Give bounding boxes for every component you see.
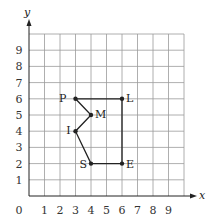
tick-labels: 0123456789123456789 xyxy=(16,44,173,217)
x-tick-label: 8 xyxy=(150,204,157,217)
x-tick-label: 5 xyxy=(103,204,110,217)
x-tick-label: 3 xyxy=(72,204,79,217)
y-tick-label: 5 xyxy=(16,109,23,122)
y-tick-label: 2 xyxy=(16,158,23,171)
coordinate-grid: xy 0123456789123456789 PLESIM xyxy=(0,0,210,222)
x-tick-label: 6 xyxy=(119,204,126,217)
point-l-dot xyxy=(120,97,124,101)
x-tick-label: 4 xyxy=(88,204,95,217)
y-tick-label: 8 xyxy=(16,60,23,73)
point-label-i: I xyxy=(66,124,70,137)
point-e-dot xyxy=(120,161,124,165)
x-tick-label: 1 xyxy=(41,204,48,217)
y-axis-arrow-icon xyxy=(27,19,32,26)
point-s-dot xyxy=(89,161,93,165)
point-label-l: L xyxy=(126,92,134,105)
y-tick-label: 9 xyxy=(16,44,23,57)
x-tick-label: 7 xyxy=(134,204,141,217)
point-label-p: P xyxy=(59,92,67,105)
x-axis-label: x xyxy=(199,189,206,202)
grid-lines xyxy=(29,34,184,196)
y-tick-label: 1 xyxy=(16,174,23,187)
axes: xy xyxy=(23,6,206,202)
point-m-dot xyxy=(89,113,93,117)
y-axis-label: y xyxy=(23,6,31,19)
point-label-e: E xyxy=(126,158,134,171)
point-i-dot xyxy=(73,129,77,133)
y-tick-label: 7 xyxy=(16,77,23,90)
point-label-m: M xyxy=(95,108,106,121)
origin-label: 0 xyxy=(16,204,23,217)
x-tick-label: 2 xyxy=(57,204,64,217)
y-tick-label: 6 xyxy=(16,93,23,106)
y-tick-label: 4 xyxy=(16,125,23,138)
y-tick-label: 3 xyxy=(16,141,23,154)
x-axis-arrow-icon xyxy=(190,194,197,199)
point-label-s: S xyxy=(79,158,87,171)
x-tick-label: 9 xyxy=(165,204,172,217)
point-p-dot xyxy=(73,97,77,101)
